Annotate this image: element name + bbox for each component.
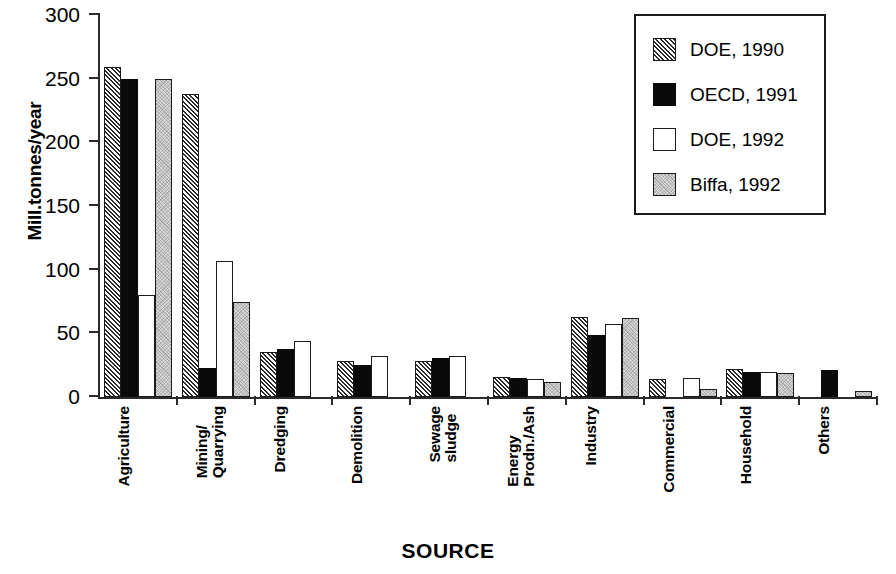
legend-item: DOE, 1990: [636, 27, 824, 72]
bar: [527, 379, 544, 397]
x-axis-category-label: Industry: [583, 406, 599, 466]
x-axis-category-label: Others: [816, 406, 832, 455]
bar: [182, 94, 199, 397]
bar: [700, 389, 717, 397]
bar: [415, 361, 432, 397]
x-axis-category-label: Energy Prodn./Ash: [505, 406, 537, 487]
y-axis-line: [98, 15, 100, 399]
bar: [760, 372, 777, 397]
bar: [777, 373, 794, 397]
y-axis-tick: 200: [89, 140, 100, 142]
bar: [449, 356, 466, 397]
x-axis-category-label: Agriculture: [116, 406, 132, 486]
bar: [277, 349, 294, 397]
bar: [622, 318, 639, 397]
x-axis-tick: [409, 396, 411, 405]
bar: [199, 368, 216, 397]
y-axis-tick: 150: [89, 204, 100, 206]
x-axis-tick: [331, 396, 333, 405]
legend: DOE, 1990OECD, 1991DOE, 1992Biffa, 1992: [634, 14, 826, 215]
y-axis-tick-label: 50: [57, 322, 80, 343]
bar: [855, 391, 872, 397]
y-axis-tick: 250: [89, 77, 100, 79]
x-axis-category-label: Commercial: [661, 406, 677, 493]
x-axis-tick: [176, 396, 178, 405]
bar: [544, 382, 561, 397]
x-axis-category-label: Mining/ Quarrying: [194, 406, 226, 478]
y-axis-tick: 300: [89, 13, 100, 15]
x-axis-category-label: Household: [738, 406, 754, 484]
x-axis-tick: [565, 396, 567, 405]
legend-swatch-icon: [653, 128, 676, 151]
legend-swatch-icon: [653, 38, 676, 61]
bar: [571, 317, 588, 397]
bar: [216, 261, 233, 397]
bar: [104, 67, 121, 397]
bar: [821, 370, 838, 397]
bar: [510, 378, 527, 397]
x-axis-tick: [876, 396, 878, 405]
bar: [337, 361, 354, 397]
legend-swatch-icon: [653, 173, 676, 196]
y-axis-tick-label: 300: [45, 4, 80, 25]
legend-item-label: DOE, 1990: [690, 40, 784, 59]
y-axis-tick-label: 0: [68, 386, 80, 407]
y-axis-tick-label: 250: [45, 67, 80, 88]
bar: [294, 341, 311, 397]
bar: [743, 372, 760, 397]
y-axis-tick-label: 100: [45, 258, 80, 279]
legend-item-label: Biffa, 1992: [690, 175, 781, 194]
x-axis-tick: [643, 396, 645, 405]
y-axis-tick: 50: [89, 331, 100, 333]
legend-item: Biffa, 1992: [636, 162, 824, 207]
legend-item-label: DOE, 1992: [690, 130, 784, 149]
bar: [493, 377, 510, 397]
x-axis-category-label: Dredging: [272, 406, 288, 472]
bar: [683, 378, 700, 397]
x-axis-tick: [254, 396, 256, 405]
bar: [649, 379, 666, 397]
y-axis-tick-label: 200: [45, 131, 80, 152]
legend-item: DOE, 1992: [636, 117, 824, 162]
bar: [605, 324, 622, 397]
x-axis-tick: [487, 396, 489, 405]
bar: [588, 335, 605, 397]
bar: [726, 369, 743, 397]
bar: [155, 79, 172, 397]
bar: [138, 295, 155, 397]
x-axis-category-label: Sewage sludge: [427, 406, 459, 463]
bar: [371, 356, 388, 397]
y-axis-tick-label: 150: [45, 195, 80, 216]
bar: [432, 358, 449, 397]
y-axis-title: Mill.tonnes/year: [24, 41, 46, 301]
y-axis-tick: 0: [89, 395, 100, 397]
x-axis-title: SOURCE: [0, 539, 896, 563]
y-axis-tick: 100: [89, 268, 100, 270]
bar-chart: Mill.tonnes/year 050100150200250300 Agri…: [0, 0, 896, 574]
bar: [233, 302, 250, 398]
bar: [121, 79, 138, 397]
x-axis-tick: [720, 396, 722, 405]
x-axis-tick: [798, 396, 800, 405]
x-axis-category-label: Demolition: [349, 406, 365, 484]
bar: [354, 365, 371, 397]
legend-swatch-icon: [653, 83, 676, 106]
legend-item-label: OECD, 1991: [690, 85, 798, 104]
bar: [260, 352, 277, 397]
legend-item: OECD, 1991: [636, 72, 824, 117]
